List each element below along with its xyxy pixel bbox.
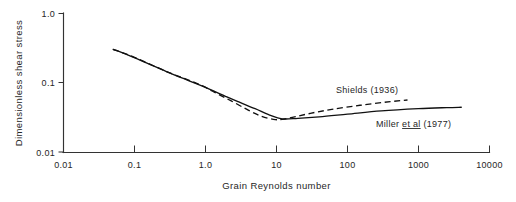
x-tick-label-1000: 1000 [408, 160, 429, 170]
miller-annotation-label: Miller et al (1977) [376, 119, 451, 129]
y-tick-label-0.01: 0.01 [36, 148, 55, 158]
x-tick-label-1.0: 1.0 [199, 160, 212, 170]
miller-label-year: (1977) [421, 119, 452, 129]
chart-figure: 1.0 0.1 0.01 0.01 0.1 1.0 10 100 1000 10… [0, 0, 516, 202]
chart-canvas: 1.0 0.1 0.01 0.01 0.1 1.0 10 100 1000 10… [0, 0, 516, 202]
x-tick-label-100: 100 [340, 160, 356, 170]
axis-lines [63, 13, 490, 153]
y-axis-tick-labels: 1.0 0.1 0.01 [36, 9, 55, 158]
x-tick-label-0.1: 0.1 [128, 160, 141, 170]
x-axis-tick-labels: 0.01 0.1 1.0 10 100 1000 10000 [54, 160, 503, 170]
x-tick-label-0.01: 0.01 [54, 160, 73, 170]
y-axis-title: Dimensionless shear stress [13, 20, 24, 147]
x-tick-label-10000: 10000 [476, 160, 503, 170]
x-axis-title: Grain Reynolds number [222, 180, 331, 191]
y-tick-label-0.1: 0.1 [42, 78, 55, 88]
y-axis-ticks [59, 14, 64, 153]
miller-label-lead: Miller [376, 119, 402, 129]
annotation-shields: Shields (1936) [336, 85, 398, 95]
series-group [113, 49, 461, 119]
x-axis-ticks [64, 146, 490, 153]
shields-annotation-label: Shields (1936) [336, 85, 398, 95]
y-tick-label-1.0: 1.0 [42, 9, 55, 19]
miller-label-etal: et al [402, 119, 421, 129]
x-tick-label-10: 10 [271, 160, 282, 170]
series-line-miller [113, 49, 461, 119]
annotation-miller: Miller et al (1977) [376, 119, 451, 129]
